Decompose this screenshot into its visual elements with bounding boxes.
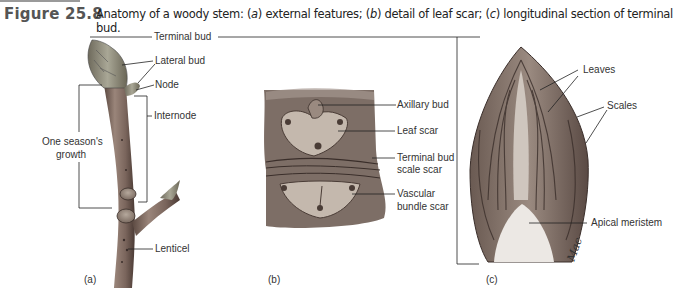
- label-node: Node: [155, 79, 179, 91]
- label-terminal-bud-scale-scar-2: scale scar: [397, 164, 442, 176]
- label-apical-meristem: Apical meristem: [591, 217, 662, 229]
- label-leaves: Leaves: [583, 64, 615, 76]
- leaf-scar-drawing: [264, 88, 386, 228]
- label-terminal-bud: Terminal bud: [154, 31, 211, 43]
- label-terminal-bud-scale-scar-1: Terminal bud: [397, 152, 454, 164]
- label-season-growth-2: growth: [56, 149, 86, 161]
- label-vascular-bundle-scar-2: bundle scar: [397, 201, 449, 213]
- label-lenticel: Lenticel: [155, 243, 189, 255]
- label-lateral-bud: Lateral bud: [155, 55, 205, 67]
- label-vascular-bundle-scar-1: Vascular: [397, 188, 435, 200]
- panel-label-a: (a): [84, 274, 96, 285]
- bud-section-drawing: Mac: [470, 47, 588, 264]
- label-season-growth-1: One season's: [42, 136, 103, 148]
- panel-label-b: (b): [268, 274, 280, 285]
- label-leaf-scar: Leaf scar: [397, 125, 438, 137]
- panel-label-c: (c): [486, 274, 498, 285]
- label-internode: Internode: [154, 110, 196, 122]
- label-scales: Scales: [607, 100, 637, 112]
- figure-illustration: Mac: [0, 0, 699, 305]
- label-axillary-bud: Axillary bud: [397, 99, 449, 111]
